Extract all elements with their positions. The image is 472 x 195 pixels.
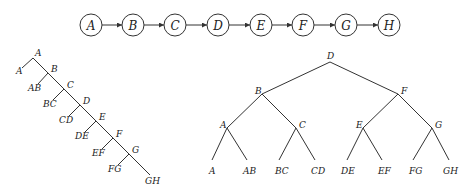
chain-node-label: E xyxy=(256,19,266,33)
leaf-label: GH xyxy=(443,166,458,176)
leaf-label: DE xyxy=(340,166,355,176)
leaf-label: GH xyxy=(145,176,160,186)
leaf-label: BC xyxy=(274,166,289,176)
chain-node-label: F xyxy=(298,19,308,33)
leaf-label: EF xyxy=(91,148,106,158)
spine-node-label: G xyxy=(132,145,139,155)
leaf-label: FG xyxy=(408,166,422,176)
leaf-label: A xyxy=(15,66,23,76)
balanced-tree: AABBCCDDEEFFGGHDBFACEG xyxy=(208,51,458,176)
internal-node-label: F xyxy=(400,86,408,96)
spine-node-label: C xyxy=(67,80,74,90)
leaf-label: BC xyxy=(42,99,57,109)
internal-node-label: D xyxy=(326,51,334,61)
leaf-edge xyxy=(432,128,449,160)
tree-edge xyxy=(262,62,330,94)
chain-node-label: B xyxy=(128,19,138,33)
leaf-label: CD xyxy=(59,115,73,125)
leaf-edge xyxy=(413,128,432,160)
tree-edge xyxy=(330,62,398,94)
leaf-label: A xyxy=(208,166,216,176)
leaf-edge xyxy=(227,128,247,160)
leaf-label: DE xyxy=(74,131,89,141)
branch-edge xyxy=(22,58,33,68)
leaf-label: CD xyxy=(311,166,325,176)
spine-node-label: B xyxy=(50,64,58,74)
degenerate-tree: AABABCBCDCDEDEFEFGFGGH xyxy=(15,48,160,186)
tree-edge xyxy=(363,94,398,128)
leaf-label: EF xyxy=(377,166,392,176)
chain-node-label: A xyxy=(86,19,96,33)
leaf-edge xyxy=(212,128,227,160)
internal-node-label: A xyxy=(219,120,227,130)
chain-node-label: H xyxy=(383,19,395,33)
leaf-label: AB xyxy=(242,166,256,176)
tree-edge xyxy=(227,94,262,128)
spine-node-label: F xyxy=(115,129,123,139)
leaf-edge xyxy=(347,128,363,160)
leaf-label: AB xyxy=(27,83,41,93)
leaf-edge xyxy=(363,128,382,160)
internal-node-label: C xyxy=(299,120,306,130)
tree-edge xyxy=(262,94,296,128)
leaf-edge xyxy=(279,128,296,160)
internal-node-label: G xyxy=(435,120,442,130)
diagram-canvas: ABCDEFGH AABABCBCDCDEDEFEFGFGGH AABBCCDD… xyxy=(0,0,472,195)
internal-node-label: E xyxy=(355,120,363,130)
linked-list-chain: ABCDEFGH xyxy=(80,14,400,36)
chain-node-label: D xyxy=(212,19,223,33)
internal-node-label: B xyxy=(254,86,262,96)
leaf-label: FG xyxy=(107,164,121,174)
spine-node-label: E xyxy=(98,112,106,122)
chain-node-label: C xyxy=(170,19,179,33)
leaf-edge xyxy=(296,128,315,160)
spine-node-label: D xyxy=(82,96,90,106)
spine-node-label: A xyxy=(34,48,42,58)
tree-edge xyxy=(398,94,432,128)
chain-node-label: G xyxy=(341,19,351,33)
